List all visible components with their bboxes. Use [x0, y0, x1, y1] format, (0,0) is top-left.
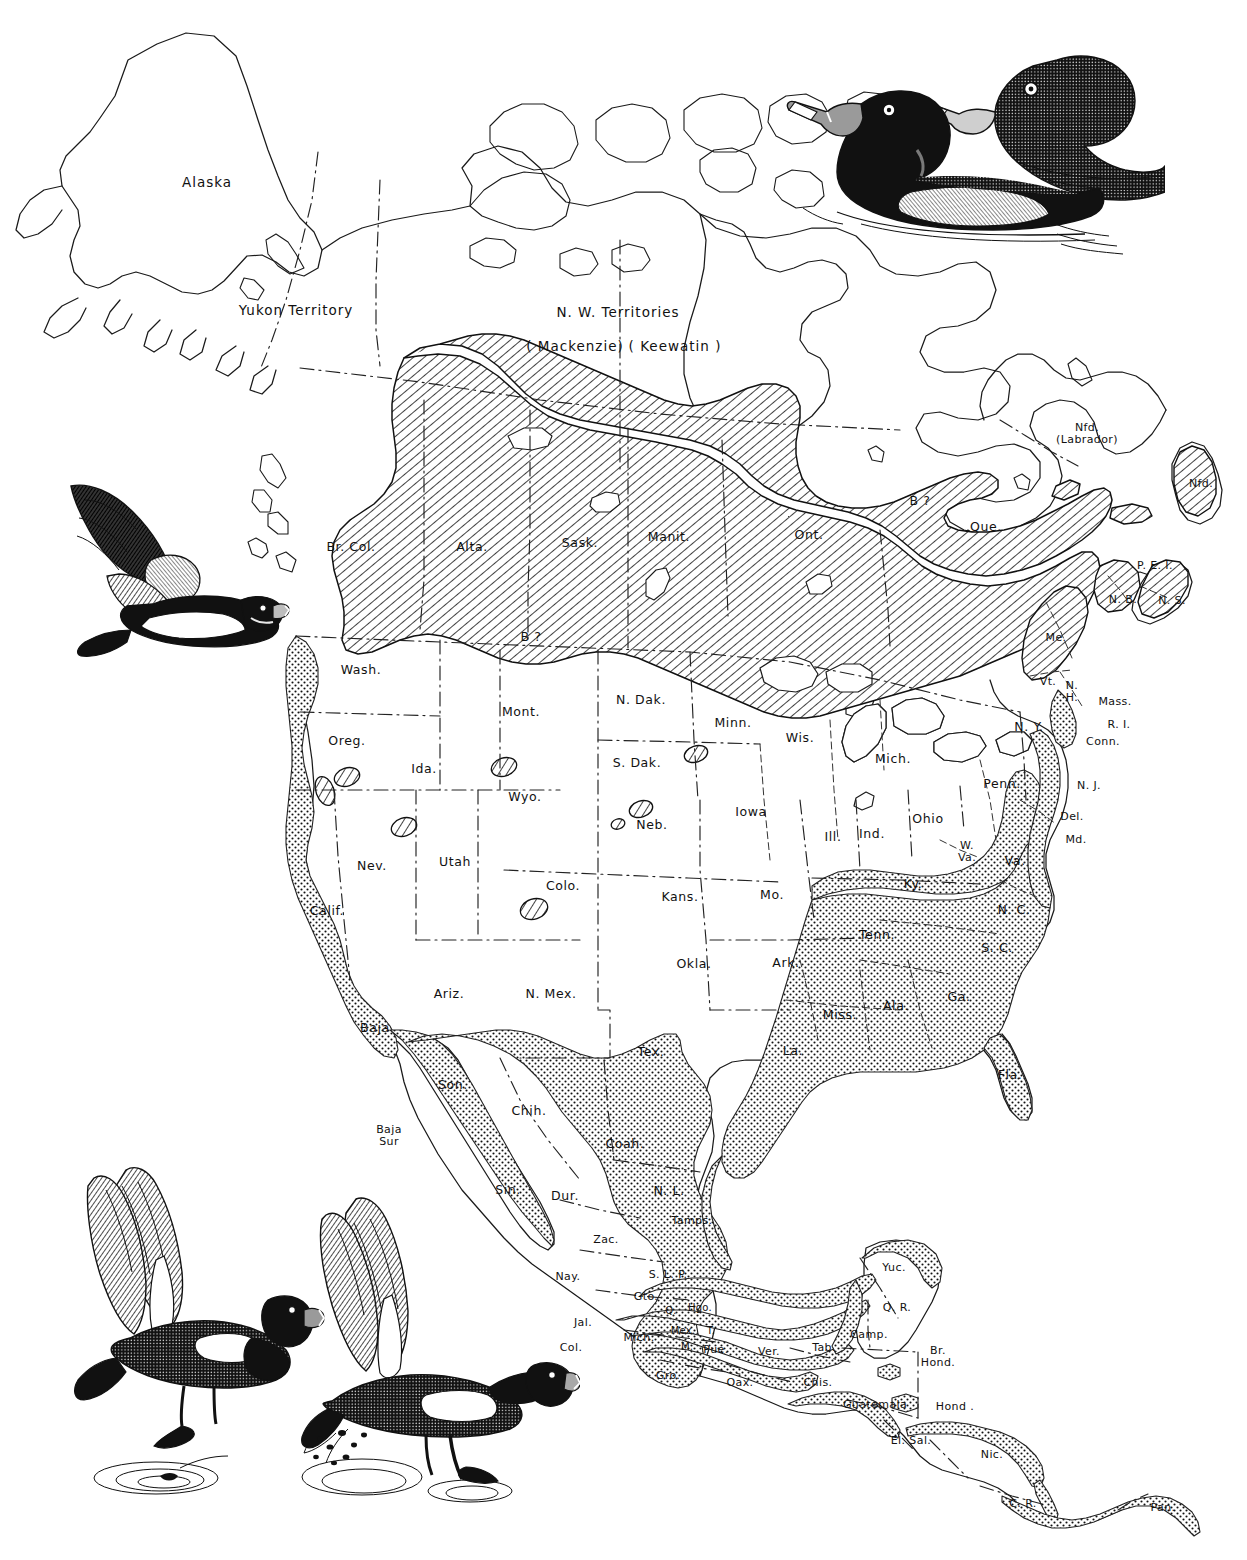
breeding-range-hatched	[332, 334, 1112, 718]
landing-duck-illustration	[60, 1160, 325, 1520]
swimming-ducks-illustration	[765, 42, 1165, 257]
flying-duck-illustration	[55, 478, 290, 673]
breeding-range-maritimes	[1022, 446, 1216, 680]
takeoff-duck-illustration	[300, 1195, 580, 1525]
alaska-outline	[16, 33, 322, 394]
range-map-page: AlaskaYukon TerritoryN. W. Territories( …	[0, 0, 1247, 1560]
isolated-breeding-patches	[311, 743, 709, 923]
